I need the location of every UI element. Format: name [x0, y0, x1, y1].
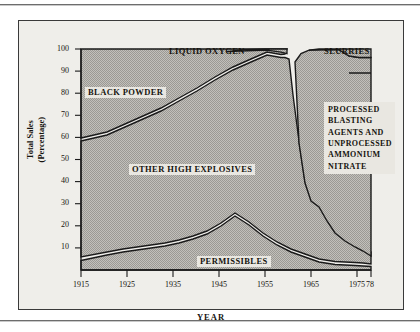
x-axis-ticks	[81, 270, 371, 277]
y-tick-30: 30	[47, 198, 69, 207]
x-tick-1935: 1935	[158, 280, 188, 289]
series-label-liquid-oxygen: LIQUID OXYGEN	[169, 47, 245, 56]
y-tick-50: 50	[47, 154, 69, 163]
x-tick-1955: 1955	[250, 280, 280, 289]
y-tick-10: 10	[47, 242, 69, 251]
series-label-other-high-explosives: OTHER HIGH EXPLOSIVES	[129, 164, 255, 175]
x-axis-title: YEAR	[19, 313, 403, 322]
pbau-line-3: AGENTS AND	[328, 127, 391, 138]
y-tick-100: 100	[47, 44, 69, 53]
y-tick-80: 80	[47, 88, 69, 97]
figure-frame: 100 90 80 70 60 50 40 30 20 10 1915 1925…	[18, 20, 404, 310]
y-tick-40: 40	[47, 176, 69, 185]
y-axis-title-line1: Total Sales	[25, 85, 36, 195]
pbau-line-1: PROCESSED	[328, 104, 391, 115]
y-tick-70: 70	[47, 110, 69, 119]
x-tick-1945: 1945	[204, 280, 234, 289]
y-tick-60: 60	[47, 132, 69, 141]
y-axis-title: Total Sales (Percentage)	[25, 85, 46, 195]
series-label-permissibles: PERMISSIBLES	[197, 256, 271, 267]
pbau-line-4: UNPROCESSED	[328, 138, 391, 149]
pbau-line-6: NITRATE	[328, 161, 391, 172]
x-tick-1965: 1965	[296, 280, 326, 289]
x-tick-1915: 1915	[66, 280, 96, 289]
x-tick-1925: 1925	[112, 280, 142, 289]
top-rule	[0, 4, 420, 6]
pbau-line-2: BLASTING	[328, 115, 391, 126]
y-axis-ticks	[75, 49, 81, 248]
y-tick-20: 20	[47, 220, 69, 229]
pbau-line-5: AMMONIUM	[328, 149, 391, 160]
x-tick-78: 78	[361, 280, 379, 289]
chart-page: 100 90 80 70 60 50 40 30 20 10 1915 1925…	[0, 0, 420, 332]
y-tick-90: 90	[47, 66, 69, 75]
series-label-slurries: SLURRIES	[324, 47, 370, 56]
series-label-processed-blasting-agents: PROCESSED BLASTING AGENTS AND UNPROCESSE…	[324, 102, 395, 174]
series-label-black-powder: BLACK POWDER	[85, 87, 166, 98]
y-axis-title-line2: (Percentage)	[36, 85, 47, 195]
